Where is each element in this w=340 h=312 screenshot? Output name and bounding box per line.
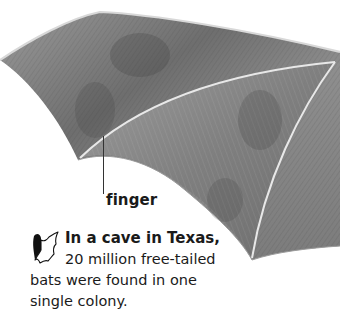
fact-line-4: single colony. bbox=[30, 293, 128, 309]
fact-line-3: bats were found in one bbox=[30, 272, 197, 288]
fact-box: In a cave in Texas, 20 million free-tail… bbox=[30, 228, 230, 312]
page: finger In a cave in Texas, 20 million fr… bbox=[0, 0, 340, 312]
fact-lead: In a cave in Texas, bbox=[65, 229, 220, 247]
finger-label-pointer bbox=[103, 136, 104, 194]
fact-line-2: 20 million free-tailed bbox=[65, 251, 216, 267]
bat-icon bbox=[30, 230, 61, 264]
finger-label: finger bbox=[106, 191, 157, 209]
